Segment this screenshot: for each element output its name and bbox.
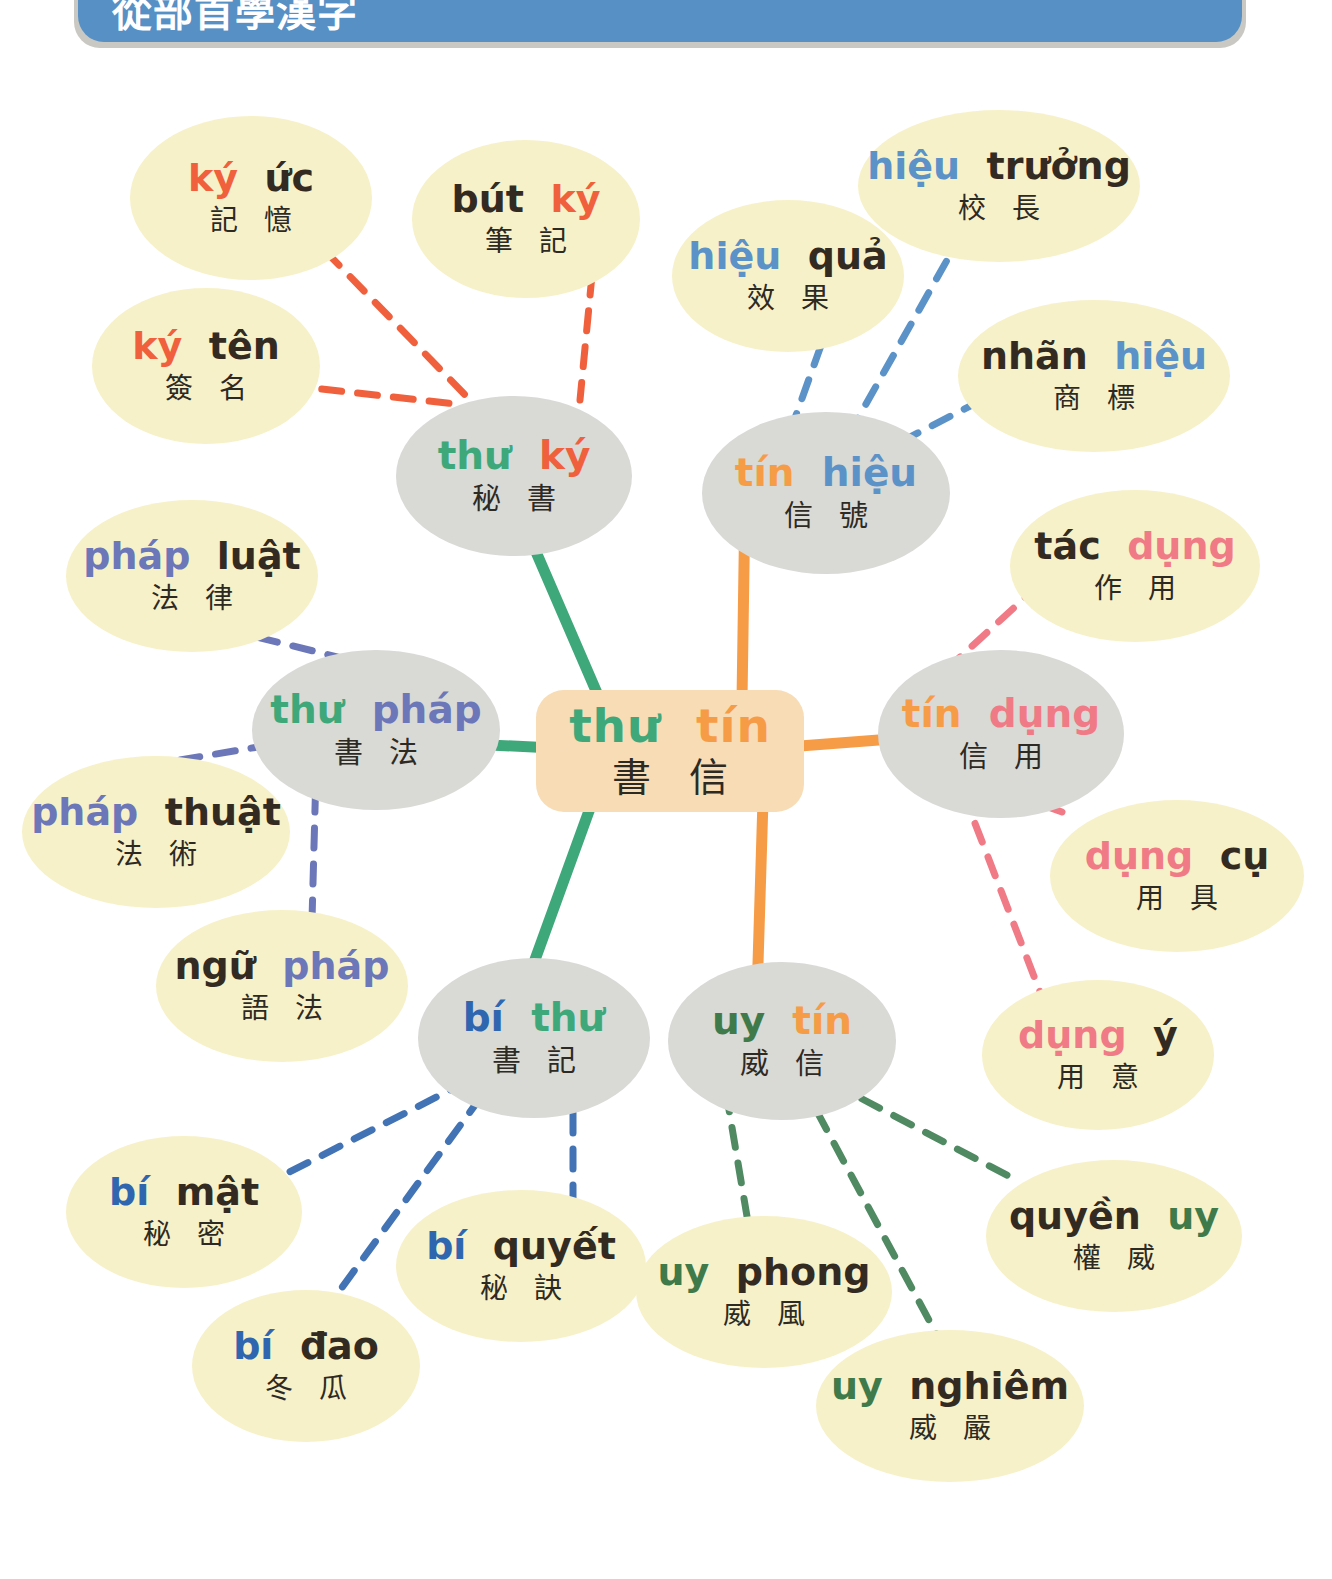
syllable-hieu: hiệu: [688, 234, 781, 278]
syllable-tin: tín: [792, 998, 852, 1043]
syllable-bi: bí: [233, 1324, 273, 1368]
node-hieu-truong-han: 校 長: [950, 194, 1049, 225]
syllable-ngu: ngữ: [175, 944, 256, 988]
node-dung-cu-viet: dụng cụ: [1085, 837, 1270, 877]
node-branch-thu-phap[interactable]: thư pháp 書 法: [252, 650, 500, 810]
node-ky-uc-han: 記 憶: [202, 206, 301, 237]
syllable-tin: tín: [902, 691, 962, 736]
syllable-phap: pháp: [83, 534, 190, 578]
node-leaf-ngu-phap[interactable]: ngữ pháp 語 法: [156, 910, 408, 1062]
syllable-bi: bí: [426, 1224, 466, 1268]
node-leaf-ky-uc[interactable]: ký ức 記 憶: [130, 116, 372, 280]
node-phap-thuat-viet: pháp thuật: [31, 793, 281, 833]
node-leaf-ky-ten[interactable]: ký tên 簽 名: [92, 288, 320, 444]
node-but-ky-viet: bút ký: [452, 180, 601, 220]
node-leaf-uy-nghiem[interactable]: uy nghiêm 威 嚴: [816, 1330, 1084, 1482]
node-branch-uy-tin[interactable]: uy tín 威 信: [668, 962, 896, 1120]
node-thu-ky-viet: thư ký: [438, 436, 591, 477]
syllable-phong: phong: [736, 1250, 871, 1294]
syllable-ky: ký: [539, 433, 590, 478]
syllable-ky: ký: [550, 177, 600, 221]
node-leaf-but-ky[interactable]: bút ký 筆 記: [412, 140, 640, 298]
node-bi-thu-han: 書 記: [483, 1046, 585, 1078]
syllable-cu: cụ: [1220, 834, 1270, 878]
node-branch-tin-hieu[interactable]: tín hiệu 信 號: [702, 412, 950, 574]
syllable-phap: pháp: [31, 790, 138, 834]
node-branch-bi-thu[interactable]: bí thư 書 記: [418, 958, 650, 1118]
node-nhan-hieu-viet: nhãn hiệu: [981, 337, 1207, 377]
node-leaf-hieu-truong[interactable]: hiệu trưởng 校 長: [858, 110, 1140, 262]
syllable-thu: thư: [531, 995, 605, 1040]
syllable-hieu: hiệu: [822, 450, 917, 495]
node-tin-hieu-viet: tín hiệu: [735, 453, 917, 494]
node-quyen-uy-han: 權 威: [1065, 1244, 1164, 1275]
node-thu-phap-viet: thư pháp: [270, 690, 481, 731]
node-ngu-phap-han: 語 法: [233, 994, 332, 1025]
node-leaf-uy-phong[interactable]: uy phong 威 風: [636, 1216, 892, 1368]
syllable-ten: tên: [209, 324, 280, 368]
node-leaf-phap-luat[interactable]: pháp luật 法 律: [66, 500, 318, 652]
node-branch-thu-ky[interactable]: thư ký 秘 書: [396, 396, 632, 556]
node-leaf-nhan-hieu[interactable]: nhãn hiệu 商 標: [958, 300, 1230, 452]
syllable-thu: thư: [270, 687, 344, 732]
syllable-mat: mật: [176, 1170, 259, 1214]
node-but-ky-han: 筆 記: [477, 227, 576, 258]
syllable-ky: ký: [132, 324, 182, 368]
node-phap-luat-viet: pháp luật: [83, 537, 300, 577]
node-dung-y-viet: dụng ý: [1018, 1016, 1178, 1056]
syllable-phap: pháp: [372, 687, 482, 732]
node-nhan-hieu-han: 商 標: [1045, 384, 1144, 415]
node-leaf-bi-quyet[interactable]: bí quyết 秘 訣: [396, 1190, 646, 1342]
link-bi-mat: [258, 1080, 470, 1188]
syllable-bi: bí: [109, 1170, 149, 1214]
node-root-han: 書 信: [598, 757, 741, 800]
node-uy-tin-han: 威 信: [731, 1049, 833, 1081]
syllable-qua: quả: [808, 234, 888, 278]
link-dung-y: [966, 800, 1047, 1010]
syllable-bi: bí: [463, 995, 504, 1040]
node-ky-ten-han: 簽 名: [157, 374, 256, 405]
syllable-nghiem: nghiêm: [909, 1364, 1069, 1408]
node-hieu-qua-viet: hiệu quả: [688, 237, 887, 277]
node-leaf-hieu-qua[interactable]: hiệu quả 效 果: [672, 200, 904, 352]
node-leaf-bi-mat[interactable]: bí mật 秘 密: [66, 1136, 302, 1288]
node-bi-mat-han: 秘 密: [135, 1220, 234, 1251]
node-root-thu-tin[interactable]: thư tín 書 信: [536, 690, 804, 812]
node-leaf-tac-dung[interactable]: tác dụng 作 用: [1010, 490, 1260, 642]
node-ky-ten-viet: ký tên: [132, 327, 280, 367]
syllable-but: bút: [452, 177, 524, 221]
spoke-root-thu-ky: [530, 538, 600, 700]
node-leaf-dung-y[interactable]: dụng ý 用 意: [982, 980, 1214, 1130]
node-tin-hieu-han: 信 號: [775, 501, 877, 533]
node-leaf-bi-dao[interactable]: bí đao 冬 瓜: [192, 1290, 420, 1442]
syllable-uy: uy: [712, 998, 765, 1043]
syllable-tac: tác: [1034, 524, 1100, 568]
node-bi-quyet-viet: bí quyết: [426, 1227, 616, 1267]
node-bi-dao-han: 冬 瓜: [257, 1374, 356, 1405]
node-leaf-dung-cu[interactable]: dụng cụ 用 具: [1050, 800, 1304, 952]
link-but-ky: [580, 275, 592, 400]
syllable-dung: dụng: [1127, 524, 1236, 568]
syllable-dao: đao: [300, 1324, 379, 1368]
node-tin-dung-viet: tín dụng: [902, 694, 1100, 735]
node-hieu-truong-viet: hiệu trưởng: [867, 147, 1131, 187]
syllable-phap: pháp: [282, 944, 389, 988]
node-uy-phong-viet: uy phong: [658, 1253, 871, 1293]
syllable-thuat: thuật: [165, 790, 281, 834]
node-bi-thu-viet: bí thư: [463, 998, 606, 1039]
node-quyen-uy-viet: quyền uy: [1009, 1197, 1219, 1237]
node-leaf-phap-thuat[interactable]: pháp thuật 法 術: [22, 756, 290, 908]
node-leaf-quyen-uy[interactable]: quyền uy 權 威: [986, 1160, 1242, 1312]
syllable-thu: thư: [438, 433, 512, 478]
node-hieu-qua-han: 效 果: [739, 284, 838, 315]
syllable-dung: dụng: [989, 691, 1100, 736]
node-uy-nghiem-viet: uy nghiêm: [831, 1367, 1069, 1407]
node-phap-luat-han: 法 律: [143, 584, 242, 615]
node-branch-tin-dung[interactable]: tín dụng 信 用: [878, 650, 1124, 818]
syllable-uc: ức: [264, 156, 314, 200]
node-uy-tin-viet: uy tín: [712, 1001, 852, 1042]
syllable-tin: tín: [696, 698, 771, 753]
syllable-ky: ký: [188, 156, 238, 200]
node-uy-nghiem-han: 威 嚴: [901, 1414, 1000, 1445]
syllable-tin: tín: [735, 450, 795, 495]
